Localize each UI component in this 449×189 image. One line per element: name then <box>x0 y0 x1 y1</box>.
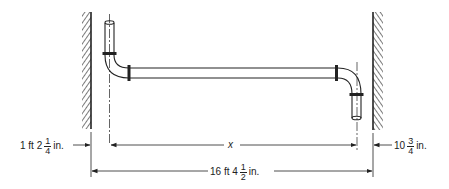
left-offset-whole: 1 ft 2 <box>20 140 42 151</box>
left-wall <box>82 12 91 129</box>
right-offset-unit: in. <box>416 140 427 151</box>
right-wall <box>373 12 383 130</box>
total-length-label: 16 ft 412in. <box>210 163 259 182</box>
total-length-unit: in. <box>249 166 260 177</box>
left-offset-fraction: 14 <box>44 137 51 156</box>
unknown-length-label: x <box>228 140 233 150</box>
total-length-whole: 16 ft 4 <box>210 166 238 177</box>
left-offset-denominator: 4 <box>44 147 51 156</box>
right-offset-whole: 10 <box>394 140 405 151</box>
total-length-fraction: 12 <box>240 163 247 182</box>
right-offset-denominator: 4 <box>407 147 414 156</box>
right-offset-label: 1034in. <box>394 137 427 156</box>
left-offset-label: 1 ft 214in. <box>20 137 64 156</box>
right-elbow <box>338 68 364 96</box>
left-elbow <box>105 55 131 81</box>
left-offset-unit: in. <box>53 140 64 151</box>
pipe-diagram: 1 ft 214in. 1034in. x 16 ft 412in. <box>0 0 449 189</box>
total-length-denominator: 2 <box>240 173 247 182</box>
right-offset-fraction: 34 <box>407 137 414 156</box>
left-riser-pipe <box>103 14 117 145</box>
horizontal-pipe <box>130 65 338 81</box>
